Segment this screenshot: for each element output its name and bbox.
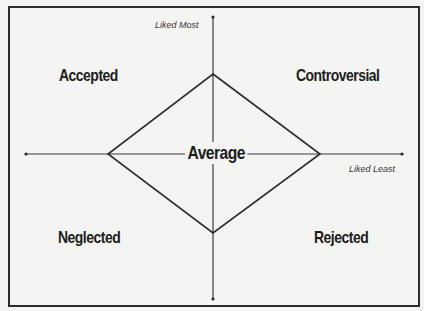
quadrant-label-rejected: Rejected <box>314 228 368 248</box>
center-label-average: Average <box>185 142 247 164</box>
quadrant-label-controversial: Controversial <box>296 66 379 86</box>
quadrant-label-neglected: Neglected <box>58 228 120 248</box>
vertical-axis-bottom-end <box>211 297 214 300</box>
axis-label-liked-least: Liked Least <box>349 164 395 174</box>
axis-label-liked-most: Liked Most <box>155 20 199 30</box>
quadrant-label-accepted: Accepted <box>59 66 118 86</box>
vertical-axis-top-end <box>211 15 214 18</box>
horizontal-axis-right-end <box>400 152 403 155</box>
horizontal-axis-left-end <box>24 152 27 155</box>
